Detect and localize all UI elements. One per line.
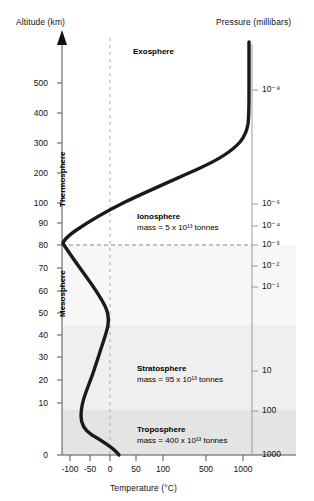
temperature-tick-1000: 1000 bbox=[223, 464, 263, 474]
pressure-tick-10: 10 bbox=[262, 365, 271, 375]
altitude-axis-title: Altitude (km) bbox=[16, 17, 65, 27]
altitude-tick-10: 10 bbox=[14, 398, 48, 408]
altitude-tick-200: 200 bbox=[14, 168, 48, 178]
altitude-tick-300: 300 bbox=[14, 138, 48, 148]
layer-label-stratosphere: Stratosphere mass = 95 x 10¹³ tonnes bbox=[137, 363, 223, 385]
layer-label-ionosphere: Ionosphere mass = 5 x 10¹³ tonnes bbox=[137, 211, 219, 233]
stratosphere-mass: mass = 95 x 10¹³ tonnes bbox=[137, 374, 223, 385]
layer-label-troposphere: Troposphere mass = 400 x 10¹³ tonnes bbox=[137, 424, 228, 446]
altitude-tick-30: 30 bbox=[14, 352, 48, 362]
pressure-tick-1e-6: 10⁻⁶ bbox=[262, 198, 280, 208]
troposphere-name: Troposphere bbox=[137, 424, 228, 435]
altitude-tick-400: 400 bbox=[14, 108, 48, 118]
pressure-tick-1e-8: 10⁻⁸ bbox=[262, 84, 280, 94]
ionosphere-name: Ionosphere bbox=[137, 211, 219, 222]
layer-label-exosphere: Exosphere bbox=[133, 47, 174, 56]
troposphere-mass: mass = 400 x 10¹³ tonnes bbox=[137, 435, 228, 446]
altitude-tick-70: 70 bbox=[14, 263, 48, 273]
temperature-ticks bbox=[70, 455, 243, 461]
layer-label-mesosphere: Mesosphere bbox=[58, 270, 67, 317]
ionosphere-mass: mass = 5 x 10¹³ tonnes bbox=[137, 222, 219, 233]
altitude-tick-0: 0 bbox=[14, 450, 48, 460]
pressure-tick-1e-1: 10⁻¹ bbox=[262, 281, 279, 291]
altitude-tick-500: 500 bbox=[14, 78, 48, 88]
temperature-tick-100: 100 bbox=[143, 464, 183, 474]
altitude-tick-100: 100 bbox=[14, 198, 48, 208]
pressure-tick-1000: 1000 bbox=[262, 449, 281, 459]
pressure-tick-1e-2: 10⁻² bbox=[262, 260, 279, 270]
pressure-tick-100: 100 bbox=[262, 405, 276, 415]
altitude-tick-50: 50 bbox=[14, 308, 48, 318]
altitude-tick-90: 90 bbox=[14, 218, 48, 228]
temperature-tick-500: 500 bbox=[186, 464, 226, 474]
pressure-tick-1e-3: 10⁻³ bbox=[262, 239, 279, 249]
altitude-arrow-icon bbox=[57, 30, 67, 45]
stratosphere-name: Stratosphere bbox=[137, 363, 223, 374]
altitude-tick-80: 80 bbox=[14, 240, 48, 250]
altitude-tick-20: 20 bbox=[14, 375, 48, 385]
layer-label-thermosphere: Thermosphere bbox=[58, 151, 67, 207]
pressure-tick-1e-4: 10⁻⁴ bbox=[262, 220, 280, 230]
band-mesosphere bbox=[62, 245, 296, 325]
altitude-tick-40: 40 bbox=[14, 330, 48, 340]
pressure-axis-title: Pressure (millibars) bbox=[216, 17, 291, 27]
temperature-axis-title: Temperature (°C) bbox=[110, 483, 177, 493]
altitude-tick-60: 60 bbox=[14, 286, 48, 296]
altitude-ticks bbox=[57, 83, 62, 455]
